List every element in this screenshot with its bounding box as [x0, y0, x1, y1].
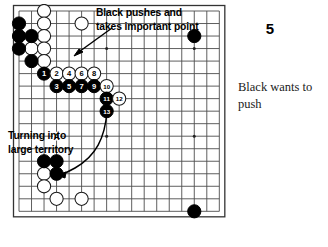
move-number-label: 3 [54, 82, 58, 91]
move-stone-5: 5 [62, 80, 75, 93]
white-stone [25, 42, 38, 55]
annotation-black-pushes: Black pushes and takes important point [96, 6, 199, 33]
white-stone [37, 42, 50, 55]
move-number-label: 12 [116, 95, 123, 102]
move-stone-12: 12 [113, 92, 126, 105]
move-stone-10: 10 [100, 80, 113, 93]
move-stone-11: 11 [100, 92, 113, 105]
white-stone [37, 54, 50, 67]
black-stone [25, 29, 38, 42]
move-stone-13: 13 [100, 105, 113, 118]
go-board[interactable]: A12345678910111213 [8, 4, 230, 243]
move-number-label: 6 [79, 69, 83, 78]
diagram-root: A12345678910111213 Black pushes and take… [0, 0, 328, 247]
panel-caption: Black wants to push [238, 79, 318, 114]
black-stone [12, 29, 25, 42]
black-stone [12, 17, 25, 30]
move-number-label: 13 [103, 108, 110, 115]
move-number-label: 2 [54, 69, 58, 78]
side-panel: 5 Black wants to push [238, 10, 324, 230]
move-number-label: 7 [79, 82, 83, 91]
white-stone [37, 29, 50, 42]
black-stone [12, 42, 25, 55]
white-stone [75, 17, 88, 30]
move-number-label: 9 [92, 82, 96, 91]
move-stone-3: 3 [50, 80, 63, 93]
move-stone-4: 4 [62, 67, 75, 80]
white-stone [37, 17, 50, 30]
move-stone-2: 2 [50, 67, 63, 80]
move-number-label: 10 [103, 83, 110, 90]
white-stone [37, 167, 50, 180]
panel-number: 5 [238, 20, 302, 37]
white-stone [37, 180, 50, 193]
move-number-label: 8 [92, 69, 96, 78]
move-stone-6: 6 [75, 67, 88, 80]
black-stone [188, 205, 201, 218]
go-board-canvas[interactable]: A12345678910111213 [8, 4, 230, 243]
black-stone [25, 54, 38, 67]
move-stone-1: 1 [37, 67, 50, 80]
black-stone [50, 155, 63, 168]
black-stone [37, 155, 50, 168]
white-stone [75, 192, 88, 205]
move-stone-8: 8 [88, 67, 101, 80]
move-number-label: 11 [103, 95, 110, 102]
white-stone [50, 192, 63, 205]
move-stone-9: 9 [88, 80, 101, 93]
move-stone-7: 7 [75, 80, 88, 93]
annotation-large-territory: Turning into large territory [8, 129, 73, 156]
white-stone [37, 4, 50, 17]
